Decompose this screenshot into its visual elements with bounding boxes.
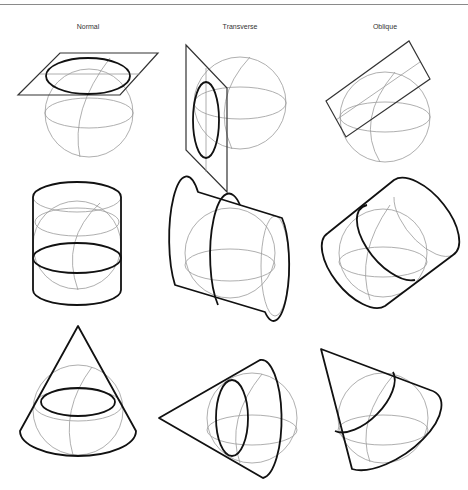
normal-cylinder-projection bbox=[33, 182, 121, 305]
normal-cone-projection bbox=[20, 326, 136, 456]
transverse-cone-projection bbox=[159, 360, 297, 478]
transverse-plane-projection bbox=[186, 45, 286, 192]
oblique-cone-projection bbox=[321, 349, 441, 470]
transverse-cylinder-projection bbox=[169, 176, 289, 320]
projection-diagram bbox=[0, 0, 468, 490]
oblique-cylinder-projection bbox=[322, 178, 459, 308]
normal-plane-projection bbox=[18, 53, 158, 157]
oblique-plane-projection bbox=[326, 41, 430, 162]
